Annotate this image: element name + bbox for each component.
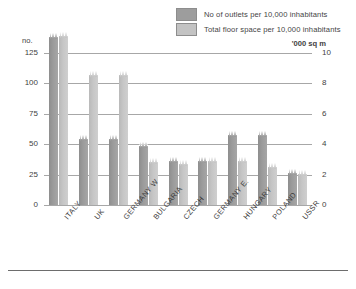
bar-group (252, 41, 282, 205)
y-axis-left-tick: 125 (25, 49, 38, 57)
y-axis-left-title: no. (22, 36, 33, 45)
retail-outlets-chart: No of outlets per 10,000 inhabitants Tot… (0, 0, 356, 289)
y-axis-left-tick: 75 (29, 110, 38, 118)
y-axis-right-tick: 0 (322, 201, 326, 209)
x-axis-labels: ITALYUKGERMANY WBULGARIACZECHGERMANY E.H… (44, 208, 312, 268)
y-axis-right-tick: 2 (322, 171, 326, 179)
bar-floor-space (179, 160, 188, 205)
bar-outlets (79, 135, 88, 205)
y-axis-left-tick: 50 (29, 140, 38, 148)
bar-floor-space (89, 71, 98, 205)
y-axis-left-tick: 100 (25, 79, 38, 87)
y-axis-right-tick: 4 (322, 140, 326, 148)
bar-group (44, 41, 74, 205)
bar-floor-space (268, 163, 277, 205)
x-axis-label-cell: BULGARIA (133, 208, 163, 268)
bar-outlets (109, 135, 118, 205)
legend-item-floor-space: Total floor space per 10,000 inhabitants (176, 23, 341, 36)
bar-floor-space (119, 71, 128, 205)
x-axis-label-cell: GERMANY E. (193, 208, 223, 268)
bar-floor-space (298, 170, 307, 205)
legend-label-floor-space: Total floor space per 10,000 inhabitants (204, 25, 341, 34)
legend-label-outlets: No of outlets per 10,000 inhabitants (204, 10, 328, 19)
y-axis-left-tick: 25 (29, 171, 38, 179)
x-axis-label-cell: HUNGARY (223, 208, 253, 268)
dark-grey-swatch-icon (176, 8, 197, 21)
bar-group (193, 41, 223, 205)
y-axis-right-tick: 10 (322, 49, 331, 57)
bar-floor-space (59, 32, 68, 205)
bar-floor-space (208, 157, 217, 205)
y-axis-right-tick: 6 (322, 110, 326, 118)
legend-item-outlets: No of outlets per 10,000 inhabitants (176, 8, 341, 21)
x-axis-label-cell: USSR (282, 208, 312, 268)
y-axis-left-tick: 0 (34, 201, 38, 209)
light-grey-swatch-icon (176, 23, 197, 36)
chart-legend: No of outlets per 10,000 inhabitants Tot… (176, 8, 341, 38)
x-axis-label-cell: POLAND (252, 208, 282, 268)
x-axis-label-cell: ITALY (44, 208, 74, 268)
bottom-border-rule (8, 270, 348, 271)
x-axis-label-cell: GERMANY W (104, 208, 134, 268)
bar-group (282, 41, 312, 205)
gridline (44, 205, 312, 206)
x-axis-label-cell: CZECH (163, 208, 193, 268)
bar-group (133, 41, 163, 205)
plot-area: 12510100875650425200 (44, 53, 312, 205)
bar-outlets (49, 33, 58, 206)
bar-group (163, 41, 193, 205)
y-axis-right-tick: 8 (322, 79, 326, 87)
x-axis-label-cell: UK (74, 208, 104, 268)
bar-group (74, 41, 104, 205)
bar-groups (44, 41, 312, 205)
bar-group (104, 41, 134, 205)
